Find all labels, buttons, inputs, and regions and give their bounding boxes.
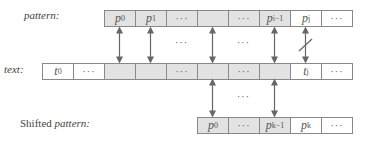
arrows-layer xyxy=(0,0,372,141)
